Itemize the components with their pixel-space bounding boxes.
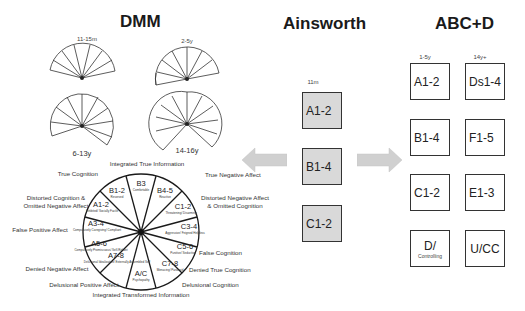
abcd-box-c: C1-2 (410, 174, 450, 211)
label-denied-negative-affect: Denied Negative Affect (26, 265, 89, 272)
svg-text:Menacing/ Paranoid: Menacing/ Paranoid (157, 268, 184, 272)
ainsworth-box-b: B1-4 (302, 148, 342, 185)
svg-text:B1-2: B1-2 (109, 186, 125, 195)
fan-age-label: 2-5y (181, 38, 193, 44)
svg-text:Reserved: Reserved (111, 195, 124, 199)
ainsworth-age: 11m (298, 79, 328, 85)
svg-text:Psychopathy: Psychopathy (132, 278, 150, 282)
abcd-age-right: 14y+ (465, 54, 495, 60)
abcd-age-left: 1-5y (410, 54, 440, 60)
svg-text:A5-6: A5-6 (91, 239, 107, 248)
svg-text:C1-2: C1-2 (175, 202, 191, 211)
svg-text:Reactive: Reactive (159, 195, 171, 199)
svg-text:A1-2: A1-2 (93, 200, 109, 209)
abcd-title: ABC+D (435, 14, 494, 34)
svg-text:Threatening/ Disarming: Threatening/ Disarming (165, 211, 197, 215)
fan-age-label: 14-16y (176, 146, 199, 155)
abcd-box-b: B1-4 (410, 119, 450, 156)
svg-text:C5-6: C5-6 (177, 242, 193, 251)
label-true-cognition: True Cognition (58, 170, 99, 177)
label-false-positive-affect: False Positive Affect (12, 226, 68, 233)
label-denied-true-cognition: Denied True Cognition (189, 266, 251, 273)
fan-11-15m (50, 43, 115, 78)
svg-text:A7-8: A7-8 (108, 251, 124, 260)
fan-age-label: 6-13y (73, 149, 92, 158)
ainsworth-box-a: A1-2 (302, 92, 342, 129)
svg-text:B3: B3 (136, 179, 145, 188)
label-distorted-cognition: Distorted Cognition & (27, 194, 86, 201)
fan-14-16y (149, 91, 222, 150)
svg-text:A3-4: A3-4 (88, 219, 104, 228)
label-delusional-positive-affect: Delusional Positive Affect (49, 281, 119, 288)
abcd-box-d: D/ Controlling (410, 230, 450, 267)
svg-text:A/C: A/C (135, 269, 148, 278)
svg-text:Comfortable: Comfortable (133, 188, 150, 192)
svg-text:& Omitted Cognition: & Omitted Cognition (207, 202, 263, 209)
abcd-box-ds: Ds1-4 (465, 63, 505, 100)
svg-text:B4-5: B4-5 (157, 186, 173, 195)
abcd-box-a: A1-2 (410, 63, 450, 100)
ainsworth-box-c: C1-2 (302, 205, 342, 242)
arrow-left-icon (242, 147, 287, 173)
abcd-box-f: F1-5 (465, 119, 505, 156)
svg-text:C3-4: C3-4 (181, 222, 197, 231)
svg-text:Inhibited/ Socially Facile: Inhibited/ Socially Facile (86, 209, 119, 213)
svg-text:Compulsively Promiscuous/ Self: Compulsively Promiscuous/ Self-Reliant (74, 248, 127, 252)
label-integrated-true: Integrated True Information (110, 160, 185, 167)
label-integrated-transformed: Integrated Transformed Information (93, 291, 191, 298)
svg-text:Delusional Idealization/ Exter: Delusional Idealization/ Externally Asse… (84, 260, 151, 264)
fan-age-label: 11-15m (77, 36, 97, 42)
label-false-cognition: False Cognition (199, 249, 243, 256)
svg-text:Compulsively Caregiving/ Compl: Compulsively Caregiving/ Compliant (73, 228, 121, 232)
svg-text:Omitted Negative Affect: Omitted Negative Affect (24, 202, 89, 209)
abcd-box-e: E1-3 (465, 174, 505, 211)
abcd-box-ucc: U/CC (465, 230, 505, 267)
label-delusional-cognition: Delusional Cognition (182, 281, 239, 288)
fan-6-13y (50, 94, 113, 145)
svg-text:Aggressive/ Feigned Helpless: Aggressive/ Feigned Helpless (165, 231, 205, 235)
arrow-right-icon (357, 147, 402, 173)
label-distorted-negative-affect: Distorted Negative Affect (201, 194, 269, 201)
svg-text:C7-8: C7-8 (162, 259, 178, 268)
svg-text:Punitive/ Seductive: Punitive/ Seductive (170, 251, 196, 255)
